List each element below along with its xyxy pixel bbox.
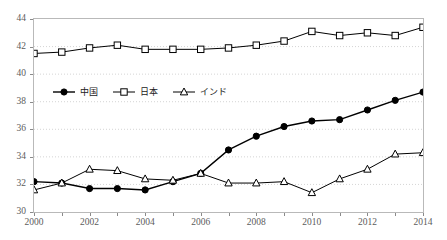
data-point [364, 107, 370, 113]
chart-title [0, 0, 447, 12]
y-tick-label: 44 [2, 14, 26, 23]
series-line [34, 92, 423, 190]
x-tick-label: 2010 [292, 217, 332, 227]
y-tick-label: 32 [2, 179, 26, 188]
plot-svg [34, 19, 423, 212]
data-point [59, 49, 65, 55]
data-point [253, 133, 259, 139]
data-point [253, 42, 259, 48]
y-tick-label: 40 [2, 69, 26, 78]
series-中国 [34, 89, 423, 193]
x-tick-label: 2014 [403, 217, 443, 227]
legend-item-日本: 日本 [112, 85, 158, 98]
legend-label: 中国 [78, 85, 98, 98]
data-point [336, 32, 342, 38]
data-point [419, 149, 423, 156]
data-point [198, 46, 204, 52]
x-tick-label: 2012 [347, 217, 387, 227]
x-tick-label: 2004 [125, 217, 165, 227]
data-point [309, 28, 315, 34]
x-tick-label: 2006 [181, 217, 221, 227]
data-point [86, 165, 93, 172]
data-point [86, 185, 92, 191]
legend-label: 日本 [138, 85, 158, 98]
data-point [225, 45, 231, 51]
open-square-icon [112, 86, 136, 98]
open-triangle-icon [172, 86, 196, 98]
y-tick-label: 38 [2, 97, 26, 106]
y-tick-label: 30 [2, 207, 26, 216]
data-point [114, 185, 120, 191]
data-point [281, 38, 287, 44]
plot-area [33, 18, 424, 213]
data-point [86, 45, 92, 51]
y-tick-label: 42 [2, 42, 26, 51]
data-point [364, 30, 370, 36]
data-point [337, 117, 343, 123]
data-point [420, 89, 423, 95]
line-chart: 3032343638404244 20002002200420062008201… [0, 0, 447, 240]
y-tick-label: 36 [2, 124, 26, 133]
data-point [364, 165, 371, 172]
data-point [225, 147, 231, 153]
legend-item-インド: インド [172, 85, 227, 98]
data-point [114, 42, 120, 48]
y-tick-label: 34 [2, 152, 26, 161]
data-point [142, 46, 148, 52]
legend-item-中国: 中国 [52, 85, 98, 98]
filled-circle-icon [52, 86, 76, 98]
legend-label: インド [198, 85, 227, 98]
data-point [34, 179, 37, 185]
data-point [392, 32, 398, 38]
x-tick-label: 2000 [14, 217, 54, 227]
series-日本 [34, 24, 423, 57]
chart-legend: 中国日本インド [52, 85, 227, 98]
data-point [309, 118, 315, 124]
data-point [281, 123, 287, 129]
data-point [280, 178, 287, 185]
data-point [420, 24, 423, 30]
data-point [170, 46, 176, 52]
x-tick-label: 2002 [70, 217, 110, 227]
data-point [392, 97, 398, 103]
data-point [142, 187, 148, 193]
data-point [34, 50, 37, 56]
x-tick-label: 2008 [236, 217, 276, 227]
